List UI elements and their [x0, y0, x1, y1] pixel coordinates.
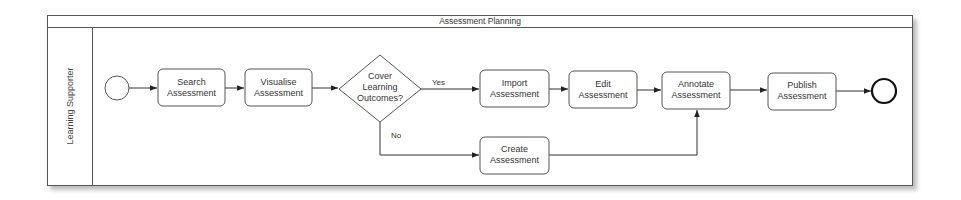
flow-label-yes: Yes	[432, 78, 445, 87]
task-visualise-line2: Assessment	[254, 88, 304, 98]
task-search-assessment[interactable]: Search Assessment	[158, 69, 225, 106]
task-import-line2: Assessment	[490, 89, 540, 99]
task-publish-assessment[interactable]: Publish Assessment	[768, 73, 836, 110]
task-search-line2: Assessment	[167, 88, 217, 98]
end-event[interactable]	[872, 79, 896, 103]
task-visualise-assessment[interactable]: Visualise Assessment	[245, 69, 312, 106]
gateway-cover-learning-outcomes[interactable]: Cover Learning Outcomes?	[339, 55, 421, 122]
flow-canvas: Search Assessment Visualise Assessment C…	[0, 0, 961, 200]
flow-label-no: No	[391, 131, 402, 140]
task-create-line2: Assessment	[490, 155, 540, 165]
task-create-line1: Create	[501, 144, 528, 154]
task-visualise-line1: Visualise	[261, 77, 297, 87]
flow-create-annotate	[549, 110, 697, 155]
gateway-line3: Outcomes?	[357, 93, 403, 103]
task-edit-line2: Assessment	[578, 90, 628, 100]
task-edit-line1: Edit	[595, 79, 611, 89]
task-search-line1: Search	[177, 77, 206, 87]
task-import-assessment[interactable]: Import Assessment	[480, 70, 549, 107]
task-create-assessment[interactable]: Create Assessment	[480, 137, 549, 174]
task-annotate-line1: Annotate	[678, 79, 714, 89]
task-publish-line2: Assessment	[777, 91, 827, 101]
task-publish-line1: Publish	[787, 80, 817, 90]
bpmn-diagram: Assessment Planning Learning Supporter	[0, 0, 961, 200]
task-annotate-assessment[interactable]: Annotate Assessment	[662, 72, 730, 109]
task-edit-assessment[interactable]: Edit Assessment	[569, 71, 637, 108]
start-event[interactable]	[105, 76, 129, 100]
gateway-line1: Cover	[368, 71, 392, 81]
gateway-line2: Learning	[362, 82, 397, 92]
task-import-line1: Import	[502, 78, 528, 88]
task-annotate-line2: Assessment	[671, 90, 721, 100]
